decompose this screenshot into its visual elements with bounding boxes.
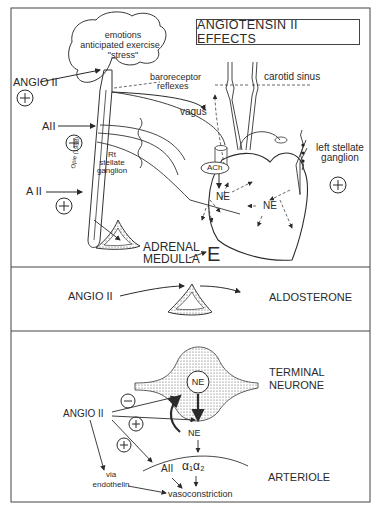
ne-vesicle-label: NE (187, 378, 209, 387)
reflexes-label: reflexes (157, 82, 189, 91)
a2-label-upper: AII (42, 121, 55, 132)
terminal-label: TERMINAL (269, 367, 325, 378)
aldosterone-label: ALDOSTERONE (269, 292, 352, 303)
a2-label-bottom: AII (161, 464, 173, 474)
endothelin-label: endothelin (86, 481, 136, 489)
ne-released-label: NE (188, 429, 201, 438)
arteriole-label: ARTERIOLE (268, 472, 330, 483)
angio-ii-label-top: ANGIO II (13, 77, 58, 88)
left-stellate-label-2: ganglion (310, 153, 370, 163)
ne-label-left: NE (216, 192, 230, 202)
diagram-title: ANGIOTENSIN II EFFECTS (196, 19, 360, 45)
angio-ii-label-middle: ANGIO II (68, 291, 113, 302)
alpha-receptors-label: α₁α₂ (182, 460, 205, 472)
ne-label-right: NE (263, 201, 277, 211)
vasoconstriction-label: vasoconstriction (168, 490, 233, 499)
a2-label-lower: A II (26, 186, 42, 197)
brain-text-exercise: anticipated exercise (70, 41, 170, 50)
rt-stellate-label-3: ganglion (94, 167, 130, 175)
brain-text-stress: "stress" (78, 51, 168, 60)
carotid-arteries (226, 62, 258, 150)
medulla-label: MEDULLA (143, 253, 200, 265)
brain-text-emotions: emotions (78, 31, 168, 40)
vagus-label: vagus (180, 107, 207, 117)
ach-label: ACh (207, 164, 223, 172)
angio-ii-label-bottom: ANGIO II (63, 409, 104, 419)
via-label: via (86, 471, 136, 479)
epinephrine-label: E (207, 244, 220, 264)
neurone-label: NEURONE (269, 380, 324, 391)
carotid-sinus-label: carotid sinus (264, 72, 320, 82)
